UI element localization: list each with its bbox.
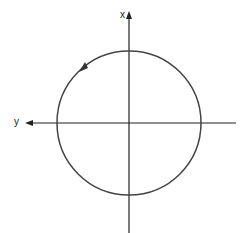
vertical-axis-arrow-icon <box>126 11 132 19</box>
diagram-canvas <box>0 0 243 233</box>
horizontal-axis-label: y <box>14 117 19 127</box>
vertical-axis-label: x <box>120 10 125 20</box>
horizontal-axis-arrow-icon <box>25 120 33 126</box>
direction-arrow-icon <box>79 62 88 72</box>
